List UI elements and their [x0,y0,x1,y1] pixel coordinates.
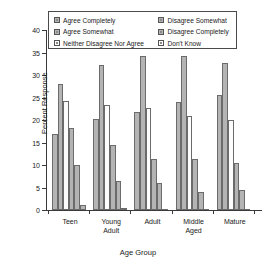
bar [245,209,251,210]
bar [74,165,80,210]
bar-group [176,30,210,210]
bar [162,209,168,210]
bar [239,190,245,210]
bar-group [93,30,127,210]
y-tick-label: 15 [32,139,40,146]
bar [80,205,86,210]
y-tick [42,143,46,144]
y-tick [42,53,46,54]
plot-area: 0510152025303540 Percent Response [46,30,262,210]
y-tick [42,188,46,189]
y-tick-label: 20 [32,117,40,124]
bar-group [134,30,168,210]
y-tick [42,30,46,31]
x-axis-title: Age Group [0,248,276,257]
x-tick [172,210,173,214]
bar [157,183,163,210]
x-category-label: Mature [210,218,260,227]
y-tick-label: 10 [32,162,40,169]
x-tick [48,210,49,214]
y-tick-label: 25 [32,94,40,101]
y-tick-label: 40 [32,27,40,34]
y-tick [42,165,46,166]
x-axis-line [46,210,262,211]
legend-label: Disagree Somewhat [167,17,226,24]
bar-chart: Agree Completely Agree Somewhat Neither … [0,0,276,273]
y-axis-title: Percent Response [40,72,49,134]
bar [204,209,210,210]
y-tick-label: 35 [32,49,40,56]
x-tick [130,210,131,214]
legend-item-disagree-somewhat: Disagree Somewhat [158,15,232,25]
x-tick [213,210,214,214]
bar-group [217,30,251,210]
x-tick [89,210,90,214]
y-tick [42,210,46,211]
y-tick-label: 0 [36,207,40,214]
y-tick-label: 30 [32,72,40,79]
bar [121,208,127,210]
legend-label: Agree Completely [63,17,115,24]
bar [116,181,122,210]
bar [198,192,204,210]
legend-swatch-icon [54,17,60,23]
legend-item-agree-completely: Agree Completely [54,15,158,25]
y-tick-label: 5 [36,184,40,191]
bar-group [52,30,86,210]
x-tick [254,210,255,214]
legend-swatch-icon [158,17,164,23]
